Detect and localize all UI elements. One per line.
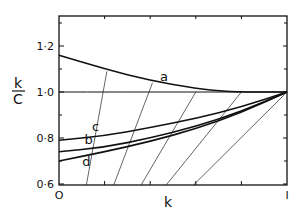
- y-tick-label: 1·0: [37, 86, 55, 99]
- data-curves: acbd: [59, 55, 287, 168]
- chart: acbd 1·21·00·80·6OI k k C: [0, 0, 301, 215]
- thin-diagonal-line: [114, 83, 153, 185]
- x-tick-label: O: [55, 189, 64, 202]
- y-axis-title-denominator: C: [13, 91, 23, 107]
- x-axis-title: k: [164, 194, 173, 210]
- curve-label-c: c: [92, 119, 99, 134]
- plot-frame: [59, 16, 287, 185]
- thin-diagonal-line: [166, 92, 241, 185]
- curve-label-b: b: [85, 132, 93, 147]
- y-tick-label: 0·8: [37, 132, 55, 145]
- curve-a: [59, 55, 287, 92]
- y-tick-label: 0·6: [37, 178, 55, 191]
- x-tick-label: I: [285, 189, 288, 202]
- curve-label-d: d: [82, 154, 90, 169]
- y-axis-title-numerator: k: [14, 75, 23, 91]
- curve-label-a: a: [160, 69, 168, 84]
- plot-border: [59, 16, 287, 185]
- y-tick-label: 1·2: [37, 40, 55, 53]
